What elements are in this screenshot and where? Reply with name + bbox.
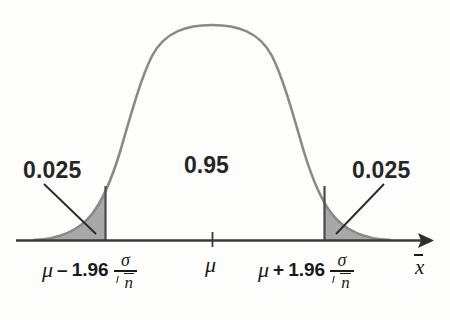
normal-curve xyxy=(34,25,390,240)
left-bound-coefficient: 1.96 xyxy=(72,259,109,281)
right-tail-leader-line xyxy=(336,184,384,234)
right-tail-shaded-area xyxy=(40,25,384,240)
x-bar-axis-label: x xyxy=(415,252,424,280)
figure-canvas: 0.025 0.95 0.025 μ – 1.96 σ n μ μ + 1.96… xyxy=(0,0,450,320)
right-bound-operator: + xyxy=(271,259,286,281)
right-confidence-bound-label: μ + 1.96 σ n xyxy=(258,250,354,290)
center-axis-mu-label: μ xyxy=(205,252,216,278)
left-tail-leader-line xyxy=(44,184,96,234)
left-bound-standard-error-fraction: σ n xyxy=(114,251,138,291)
right-bound-mu: μ xyxy=(258,257,269,283)
right-bound-coefficient: 1.96 xyxy=(288,259,325,281)
left-bound-mu: μ xyxy=(42,257,53,283)
left-bound-operator: – xyxy=(55,259,70,281)
right-bound-standard-error-fraction: σ n xyxy=(330,251,354,291)
left-tail-probability-label: 0.025 xyxy=(23,157,82,184)
right-bound-numerator: σ xyxy=(334,251,349,270)
left-confidence-bound-label: μ – 1.96 σ n xyxy=(42,250,137,290)
left-bound-numerator: σ xyxy=(118,251,133,270)
right-tail-probability-label: 0.025 xyxy=(352,157,411,184)
x-bar-glyph: x xyxy=(415,252,424,280)
left-tail-shaded-area xyxy=(40,25,384,240)
right-bound-denominator-sqrt: n xyxy=(330,272,354,291)
center-probability-label: 0.95 xyxy=(184,152,229,179)
left-bound-denominator-sqrt: n xyxy=(114,272,138,291)
